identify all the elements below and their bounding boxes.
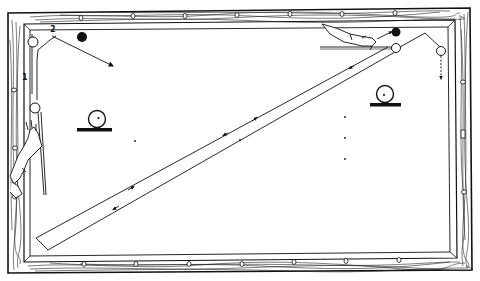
path-label-1: 1 xyxy=(22,73,28,82)
table-illustration: 2 1 xyxy=(0,0,480,281)
path-label-2: 2 xyxy=(50,25,56,34)
billiard-diagram: 2 1 xyxy=(0,0,480,281)
